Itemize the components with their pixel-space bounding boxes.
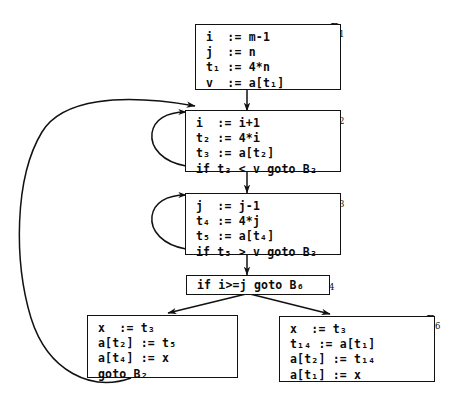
block-b2-stmt-1: t₂ := 4*i [196,131,331,146]
cfg-diagram: B1 i := m-1 j := n t₁ := 4*n v := a[t₁] … [0,0,449,405]
block-b3-stmt-0: j := j-1 [196,199,331,214]
block-b3-stmt-2: t₅ := a[t₄] [196,229,331,244]
block-b6: x := t₃ t₁₄ := a[t₁] a[t₂] := t₁₄ a[t₁] … [279,316,435,382]
block-b5-stmt-2: a[t₄] := x [98,351,228,366]
block-b5-stmt-3: goto B₂ [98,367,228,382]
block-b6-stmt-0: x := t₃ [290,322,425,337]
block-b5-stmt-0: x := t₃ [98,321,228,336]
block-b1-stmt-3: v := a[t₁] [206,76,331,91]
edge-b4-b5 [168,294,246,313]
block-b6-stmt-1: t₁₄ := a[t₁] [290,337,425,352]
block-b1: i := m-1 j := n t₁ := 4*n v := a[t₁] [195,24,341,90]
block-b1-stmt-1: j := n [206,45,331,60]
block-b4-stmt-0: if i>=j goto B₆ [197,278,320,293]
block-b3-stmt-3: if t₅ > v goto B₃ [196,245,331,260]
block-b6-stmt-3: a[t₁] := x [290,368,425,383]
block-b5: x := t₃ a[t₂] := t₅ a[t₄] := x goto B₂ [87,315,238,378]
block-b1-stmt-0: i := m-1 [206,30,331,45]
block-b4: if i>=j goto B₆ [186,275,330,295]
block-b5-stmt-1: a[t₂] := t₅ [98,336,228,351]
block-b6-stmt-2: a[t₂] := t₁₄ [290,352,425,367]
block-b3-stmt-1: t₄ := 4*j [196,214,331,229]
edge-b3-self-loop [152,195,186,249]
block-b2-stmt-3: if t₃ < v goto B₂ [196,162,331,177]
edge-b2-self-loop [152,112,186,166]
block-b2: i := i+1 t₂ := 4*i t₃ := a[t₂] if t₃ < v… [185,110,341,172]
block-b3: j := j-1 t₄ := 4*j t₅ := a[t₄] if t₅ > v… [185,193,341,255]
block-b2-stmt-2: t₃ := a[t₂] [196,146,331,161]
block-b1-stmt-2: t₁ := 4*n [206,60,331,75]
block-b2-stmt-0: i := i+1 [196,116,331,131]
